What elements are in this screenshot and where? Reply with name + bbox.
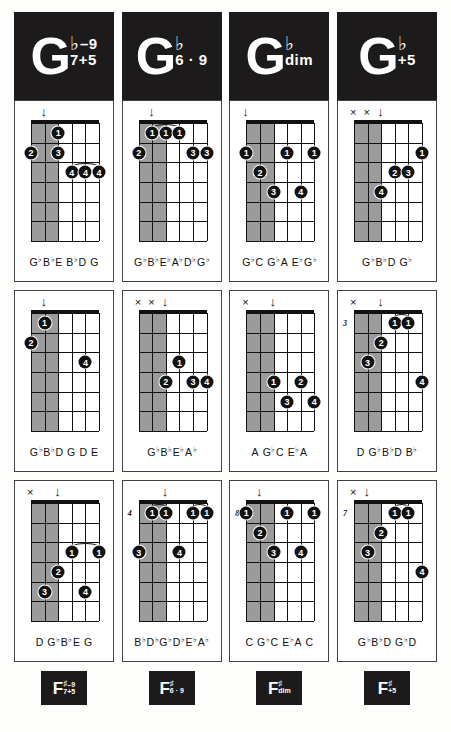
chord-note-names: G♭B♭D G♭ (338, 255, 436, 268)
fret-line (246, 601, 314, 602)
string-line (72, 123, 73, 241)
downbeat-arrow-icon: ↓ (242, 106, 249, 117)
chord-column: G♭dim↓111234G♭C G♭A E♭G♭×↓1234A G♭C E♭A↓… (229, 12, 329, 662)
string-line (45, 313, 46, 431)
chord-header-label: G♭6 · 9 (136, 30, 208, 82)
finger-dot: 1 (38, 316, 51, 329)
enharmonic-root-letter: F (159, 680, 169, 697)
fret-line (139, 523, 207, 524)
base-fret-number: 7 (343, 509, 347, 518)
fretboard-grid: 111234 (246, 123, 314, 241)
finger-dot: 4 (308, 395, 321, 408)
finger-dot: 2 (25, 336, 38, 349)
fret-line (354, 562, 422, 563)
fretboard-grid: 11234 (354, 313, 422, 431)
chord-header-plate: G♭6 · 9 (122, 12, 222, 100)
enharmonic-topline: ♯–9 (63, 681, 75, 688)
finger-dot: 1 (308, 506, 321, 519)
fret-line (139, 352, 207, 353)
string-line (193, 313, 194, 431)
enharmonic-root-letter: F (268, 680, 278, 697)
chord-markers: ↓ (230, 106, 328, 120)
downbeat-arrow-icon: ↓ (256, 486, 263, 497)
fret-line (139, 601, 207, 602)
fret-line (354, 523, 422, 524)
chord-accidental: ♭ (70, 36, 79, 52)
fret-line (246, 562, 314, 563)
fret-line (354, 372, 422, 373)
fret-line (246, 621, 314, 622)
downbeat-arrow-icon: ↓ (377, 106, 384, 117)
fret-line (246, 313, 314, 314)
fret-line (354, 182, 422, 183)
fret-line (139, 431, 207, 432)
fret-line (139, 582, 207, 583)
muted-string-icon: × (148, 297, 154, 308)
muted-string-icon: × (350, 487, 356, 498)
chord-markers: ×↓ (338, 296, 436, 310)
finger-dot: 3 (200, 146, 213, 159)
fret-line (139, 313, 207, 314)
fret-line (31, 182, 99, 183)
chord-diagram-stack: ↓123444G♭B♭E B♭D G↓124G♭B♭D G D E×↓11234… (14, 100, 114, 662)
chord-header-plate: G♭dim (229, 12, 329, 100)
enharmonic-plate: F♯dim (256, 671, 302, 705)
finger-dot: 4 (79, 585, 92, 598)
finger-dot: 1 (52, 126, 65, 139)
string-line (179, 503, 180, 621)
chord-diagram-stack: ↓111234G♭C G♭A E♭G♭×↓1234A G♭C E♭A↓81112… (229, 100, 329, 662)
chord-diagram: ↓4111134B♭D♭G♭D♭E♭A♭ (122, 480, 222, 662)
fret-line (31, 392, 99, 393)
enharmonic-quality-stack: ♯dim (278, 680, 290, 694)
string-line (274, 503, 275, 621)
muted-string-icon: × (27, 487, 33, 498)
chord-diagram: ↓111234G♭C G♭A E♭G♭ (229, 100, 329, 282)
fret-line (354, 241, 422, 242)
chord-diagram: ×↓311234D G♭B♭D B♭ (337, 290, 437, 472)
finger-dot: 4 (79, 166, 92, 179)
finger-dot: 3 (52, 146, 65, 159)
finger-dot: 1 (93, 546, 106, 559)
fret-line (246, 123, 314, 124)
chord-diagram: ↓111233G♭B♭E♭A♭D♭G♭ (122, 100, 222, 282)
enharmonic-extension-bottom: 6 · 9 (170, 687, 184, 694)
fret-line (354, 221, 422, 222)
string-line (72, 503, 73, 621)
fret-line (31, 143, 99, 144)
fret-line (31, 523, 99, 524)
chord-column: G♭6 · 9↓111233G♭B♭E♭A♭D♭G♭××↓1234G♭B♭E♭A… (122, 12, 222, 662)
chord-markers: ×↓ (338, 486, 436, 500)
fret-line (31, 202, 99, 203)
fret-line (354, 313, 422, 314)
chord-markers: ×↓ (15, 486, 113, 500)
string-line (381, 503, 382, 621)
downbeat-arrow-icon: ↓ (54, 486, 61, 497)
string-line (166, 313, 167, 431)
string-line (301, 503, 302, 621)
enharmonic-quality-stack: ♯+5 (388, 680, 396, 694)
chord-markers: ××↓ (338, 106, 436, 120)
string-line (99, 503, 100, 621)
string-line (314, 503, 315, 621)
chord-note-names: G♭B♭E♭A♭ (123, 445, 221, 458)
string-line (152, 503, 153, 621)
chord-markers: ↓ (15, 296, 113, 310)
muted-string-icon: × (135, 297, 141, 308)
string-line (72, 313, 73, 431)
fret-line (354, 392, 422, 393)
finger-dot: 4 (93, 166, 106, 179)
fret-line (246, 352, 314, 353)
string-line (422, 503, 423, 621)
fret-line (31, 241, 99, 242)
string-line (58, 503, 59, 621)
chord-root-letter: G (30, 30, 69, 82)
finger-dot: 1 (388, 506, 401, 519)
chord-extension-bottom: 7+5 (70, 52, 98, 68)
finger-dot: 1 (65, 546, 78, 559)
string-line (45, 503, 46, 621)
string-line (179, 313, 180, 431)
string-line (354, 503, 355, 621)
fret-line (139, 182, 207, 183)
chord-extension-top: –9 (80, 36, 98, 51)
muted-string-icon: × (242, 297, 248, 308)
